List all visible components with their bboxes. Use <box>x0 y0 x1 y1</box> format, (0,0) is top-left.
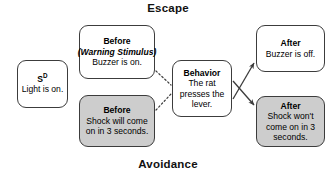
node-after-buzzer-body: Buzzer is off. <box>266 49 316 60</box>
node-before-shock-title: Before <box>103 105 130 116</box>
connector-before-shock-to-behavior <box>156 94 171 110</box>
connector-behavior-to-after-shock <box>233 81 254 105</box>
node-behavior-title: Behavior <box>184 68 221 79</box>
node-sd-superscript: D <box>43 72 48 79</box>
node-sd-title: SD <box>37 74 47 85</box>
node-before-warning-subtitle: (Warning Stimulus) <box>78 47 157 58</box>
diagram-bottom-label: Avoidance <box>0 158 336 170</box>
node-before-warning-body: Buzzer is on. <box>92 57 142 68</box>
node-after-shock: After Shock won't come on in 3 seconds. <box>256 96 325 147</box>
node-sd-body: Light is on. <box>22 84 64 95</box>
node-behavior-body: The rat presses the lever. <box>176 78 228 110</box>
node-before-warning-stimulus: Before (Warning Stimulus) Buzzer is on. <box>79 25 155 79</box>
node-after-shock-body: Shock won't come on in 3 seconds. <box>260 111 321 143</box>
node-discriminative-stimulus: SD Light is on. <box>17 60 68 108</box>
connector-before-warning-to-behavior <box>156 71 171 85</box>
node-after-shock-title: After <box>280 101 300 112</box>
node-before-warning-title: Before <box>103 36 130 47</box>
node-after-buzzer: After Buzzer is off. <box>256 25 325 72</box>
node-after-buzzer-title: After <box>280 38 300 49</box>
diagram-top-label: Escape <box>0 2 336 14</box>
node-before-shock-body: Shock will come on in 3 seconds. <box>83 116 151 137</box>
connector-behavior-to-after-buzzer <box>233 63 254 99</box>
node-before-shock: Before Shock will come on in 3 seconds. <box>79 95 155 147</box>
node-behavior: Behavior The rat presses the lever. <box>172 60 232 117</box>
escape-avoidance-diagram: Escape SD Light is on. Before (Warning S… <box>0 0 336 172</box>
